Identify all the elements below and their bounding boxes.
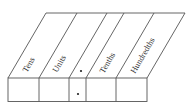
slanted-header xyxy=(8,13,185,78)
column-label-tens: Tens xyxy=(20,55,37,74)
bottom-boxes xyxy=(8,78,147,102)
place-value-chart: Tens Units Tenths Hundredths xyxy=(0,0,194,105)
column-label-units: Units xyxy=(50,53,68,74)
boxes-outline xyxy=(8,78,147,102)
decimal-point-box-dot xyxy=(77,93,79,95)
decimal-point-header-dot xyxy=(80,70,82,72)
